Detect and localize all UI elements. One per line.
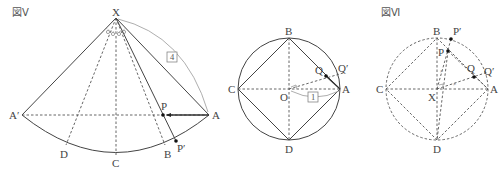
label-d: D xyxy=(433,143,441,155)
angle-mark xyxy=(291,85,297,89)
radius-x-b xyxy=(116,18,165,145)
arrowhead-icon xyxy=(166,113,171,117)
label-a: A xyxy=(342,83,350,95)
edge-x-a-prime xyxy=(22,18,116,115)
point-p-prime xyxy=(449,37,453,41)
label-p: P xyxy=(438,46,444,58)
label-a: A xyxy=(212,109,220,121)
diagram-canvas: 図Ⅴ 4 X A′ A xyxy=(0,0,500,169)
point-p xyxy=(161,113,165,117)
label-a-prime: A′ xyxy=(9,109,19,121)
point-q xyxy=(324,74,328,78)
tick-mark-xp: ≠ xyxy=(440,68,444,74)
radius-x-d xyxy=(66,18,116,145)
label-c: C xyxy=(376,83,383,95)
label-c: C xyxy=(228,83,235,95)
point-q xyxy=(472,75,476,79)
figure-5-title: 図Ⅴ xyxy=(12,7,29,18)
label-d: D xyxy=(285,143,293,155)
label-q-prime: Q′ xyxy=(484,65,494,77)
tick-mark-xq: ≠ xyxy=(453,81,457,87)
label-b: B xyxy=(285,25,292,37)
label-q: Q xyxy=(467,62,475,74)
segment-x-p-prime xyxy=(116,18,176,141)
length-label-1: 1 xyxy=(311,92,315,102)
label-o: O xyxy=(280,91,288,103)
label-b: B xyxy=(433,25,440,37)
segment-p-d xyxy=(437,51,448,140)
label-p-prime: P′ xyxy=(453,25,462,37)
label-d: D xyxy=(60,148,68,160)
label-c: C xyxy=(112,157,119,169)
label-q: Q xyxy=(315,64,323,76)
label-q-prime: Q′ xyxy=(338,62,348,74)
figure-6: 図Ⅵ ≠ ≠ B P′ P Q Q′ C A X D xyxy=(376,7,498,155)
figure-base-circle: 1 B D C A O Q Q′ xyxy=(228,25,350,155)
label-b: B xyxy=(164,148,171,160)
arrow-a-to-q xyxy=(327,77,340,89)
figure-6-title: 図Ⅵ xyxy=(381,7,400,18)
label-a: A xyxy=(490,83,498,95)
point-p xyxy=(446,49,450,53)
length-arc-xa xyxy=(118,19,208,112)
label-x: X xyxy=(112,6,120,18)
label-x: X xyxy=(428,91,436,103)
label-p: P xyxy=(161,100,167,112)
figure-5: 図Ⅴ 4 X A′ A xyxy=(9,6,220,169)
label-p-prime: P′ xyxy=(177,142,186,154)
